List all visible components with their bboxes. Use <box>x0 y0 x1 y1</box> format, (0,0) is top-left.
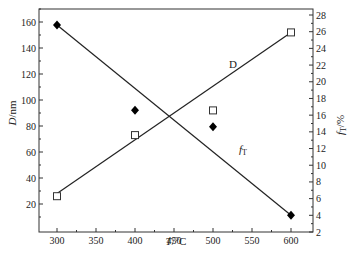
y2-tick-label: 10 <box>316 160 326 171</box>
y-tick-label: 120 <box>21 69 36 80</box>
series-label-d: D <box>229 58 237 70</box>
y2-tick-label: 12 <box>316 143 326 154</box>
x-tick-label: 550 <box>245 235 260 246</box>
y-tick-label: 60 <box>26 147 36 158</box>
y-axis-right-label: fT/% <box>334 115 348 135</box>
square-marker <box>132 132 139 139</box>
y2-tick-label: 8 <box>316 176 321 187</box>
y2-tick-label: 16 <box>316 110 326 121</box>
x-axis-label: T/°C <box>166 235 187 247</box>
y-tick-label: 80 <box>26 121 36 132</box>
diamond-marker <box>53 21 61 30</box>
y2-tick-label: 18 <box>316 93 326 104</box>
y2-tick-label: 4 <box>316 210 321 221</box>
y2-tick-label: 22 <box>316 60 326 71</box>
fit-lines <box>57 25 291 215</box>
y2-tick-label: 14 <box>316 126 326 137</box>
diamond-marker <box>287 211 295 220</box>
diamond-marker <box>131 106 139 115</box>
y2-tick-label: 20 <box>316 76 326 87</box>
square-marker <box>288 29 295 36</box>
square-marker <box>54 193 61 200</box>
plot-border <box>39 9 313 232</box>
y2-tick-label: 2 <box>316 227 321 238</box>
chart-container: 300350400450500550600 204060801001201401… <box>0 0 356 254</box>
y-tick-label: 100 <box>21 95 36 106</box>
plot-frame <box>39 9 313 232</box>
y-tick-label: 20 <box>26 199 36 210</box>
y-tick-label: 140 <box>21 43 36 54</box>
x-tick-label: 400 <box>128 235 143 246</box>
y-axis-right: 246810121416182022242628 <box>309 10 326 238</box>
fit-line-f-t <box>57 25 291 215</box>
x-tick-label: 500 <box>206 235 221 246</box>
fit-line-d <box>57 32 291 193</box>
x-tick-label: 600 <box>284 235 299 246</box>
y-tick-label: 160 <box>21 17 36 28</box>
x-tick-label: 300 <box>50 235 65 246</box>
y2-tick-label: 28 <box>316 10 326 21</box>
diamond-marker <box>209 122 217 131</box>
y2-tick-label: 6 <box>316 193 321 204</box>
y2-tick-label: 24 <box>316 43 326 54</box>
y-axis-left: 20406080100120140160 <box>21 9 43 217</box>
x-tick-label: 350 <box>89 235 104 246</box>
chart-svg: 300350400450500550600 204060801001201401… <box>0 0 356 254</box>
square-marker <box>210 107 217 114</box>
series-label-ft: fT <box>239 143 247 157</box>
y2-tick-label: 26 <box>316 26 326 37</box>
y-tick-label: 40 <box>26 173 36 184</box>
y-axis-left-label: D/nm <box>6 100 18 127</box>
